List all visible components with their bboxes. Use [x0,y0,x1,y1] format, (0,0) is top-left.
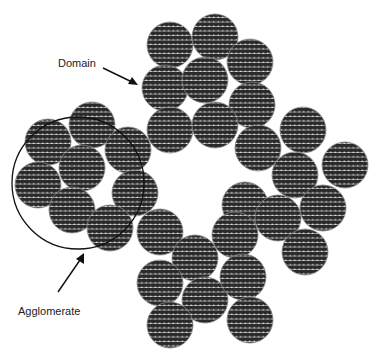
domain-arrow [103,68,138,85]
domain-particle [220,254,266,300]
domain-particle [235,125,281,171]
domain-particle [280,107,326,153]
domain-particle [147,302,193,348]
domain-particle [300,185,346,231]
agglomerate-arrow [58,253,84,292]
domain-particle [137,260,183,306]
agglomerate-label: Agglomerate [18,305,80,317]
domain-particle [105,127,151,173]
domain-particle [147,22,193,68]
domain-particle [182,57,228,103]
domain-particle [282,229,328,275]
domain-label: Domain [58,57,96,69]
domain-particle [147,107,193,153]
domain-particle [59,145,105,191]
domain-particle [227,297,273,343]
domain-particle [227,39,273,85]
domain-particle [142,65,188,111]
domain-particle [192,102,238,148]
domain-particle [212,212,258,258]
domain-particle [322,142,368,188]
